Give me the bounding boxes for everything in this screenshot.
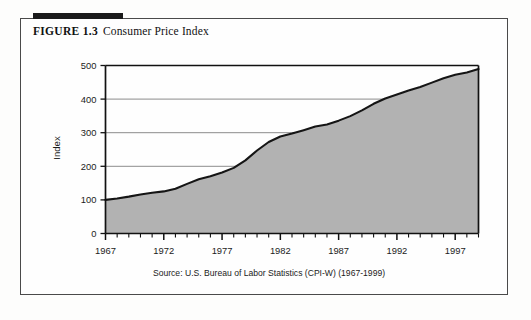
figure-caption-text: Consumer Price Index — [103, 25, 209, 37]
figure-rule-bar — [33, 13, 123, 19]
figure-number: FIGURE 1.3 — [33, 25, 98, 37]
figure-caption: FIGURE 1.3Consumer Price Index — [33, 25, 209, 37]
figure-box — [20, 18, 508, 295]
